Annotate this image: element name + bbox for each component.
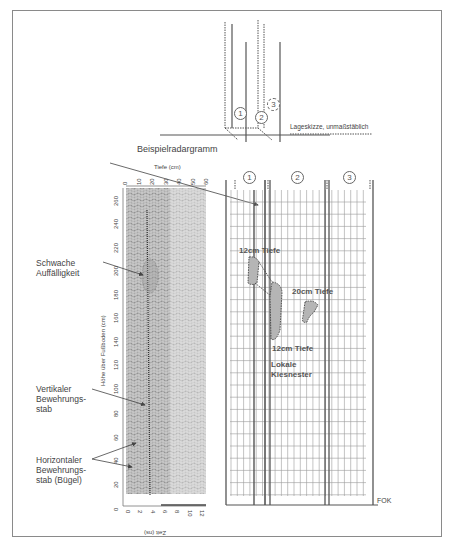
time-tick: 10: [187, 510, 193, 517]
label-20cm: 20cm Tiefe: [292, 287, 333, 296]
depth-tick: 0: [122, 182, 128, 185]
height-tick: 60: [113, 434, 119, 441]
height-tick: 140: [113, 336, 119, 346]
label-weak-anomaly: Schwache Auffälligkeit: [36, 258, 106, 278]
label-12cm-top: 12cm Tiefe: [239, 246, 280, 255]
sketch-marker-1: 1: [234, 107, 247, 120]
time-tick: 4: [150, 510, 156, 513]
height-tick: 0: [113, 508, 119, 511]
grid-column-2-marker: 2: [291, 171, 304, 184]
height-axis-label: Höhe über Fußboden (cm): [100, 315, 106, 386]
height-tick: 40: [113, 457, 119, 464]
depth-tick: 10: [136, 178, 142, 185]
height-tick: 180: [113, 289, 119, 299]
depth-tick: 30: [163, 178, 169, 185]
time-tick: 8: [174, 510, 180, 513]
sketch-marker-3: 3: [267, 98, 280, 111]
label-gravel-nests: Lokale Kiesnester: [271, 360, 321, 380]
height-tick: 160: [113, 313, 119, 323]
grid-column-3-marker: 3: [343, 171, 356, 184]
height-tick: 120: [113, 360, 119, 370]
label-fok: FOK: [377, 497, 391, 504]
depth-tick: 40: [176, 178, 182, 185]
sketch-marker-2: 2: [255, 111, 268, 124]
grid-column-1-marker: 1: [243, 171, 256, 184]
height-tick: 260: [113, 195, 119, 205]
radargram-title: Beispielradargramm: [137, 144, 218, 154]
label-12cm-bottom: 12cm Tiefe: [272, 344, 313, 353]
time-axis-label: Zeit (ns): [144, 530, 166, 536]
time-tick: 0: [125, 510, 131, 513]
time-tick: 6: [162, 510, 168, 513]
height-tick: 220: [113, 242, 119, 252]
height-tick: 20: [113, 481, 119, 488]
label-horizontal-rebar: Horizontaler Bewehrungs-stab (Bügel): [36, 455, 100, 485]
depth-tick: 60: [203, 178, 209, 185]
depth-tick: 50: [190, 178, 196, 185]
height-tick: 80: [113, 410, 119, 417]
height-tick: 200: [113, 266, 119, 276]
height-tick: 240: [113, 219, 119, 229]
time-tick: 2: [137, 510, 143, 513]
height-tick: 100: [113, 383, 119, 393]
sketch-caption: Lageskizze, unmaßstäblich: [290, 123, 368, 130]
depth-tick: 20: [149, 178, 155, 185]
label-vertical-rebar: Vertikaler Bewehrungs-stab: [36, 384, 96, 414]
depth-axis-label: Tiefe (cm): [154, 164, 181, 170]
time-tick: 12: [199, 510, 205, 517]
